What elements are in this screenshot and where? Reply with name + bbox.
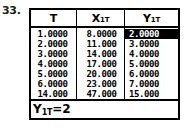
column-body-t: 1.0000 2.0000 3.0000 4.0000 5.0000 6.000… <box>31 28 76 99</box>
column-header-x1t-sub2: T <box>105 15 110 26</box>
table-cell[interactable]: 2.0000 <box>31 39 76 49</box>
table-cell[interactable]: 17.000 <box>77 59 124 69</box>
header-divider <box>31 26 178 28</box>
calculator-screen: T X1T Y1T 1.0000 2.0000 3.0000 4.0000 <box>29 8 180 120</box>
table-cell[interactable]: 47.000 <box>77 89 124 99</box>
table-cell[interactable]: 23.000 <box>77 79 124 89</box>
column-header-y1t-sub2: T <box>156 15 161 26</box>
calculator-table-figure: 33. T X1T Y1T 1.0000 <box>0 0 186 132</box>
status-entry-line[interactable]: Y1T=2 <box>31 99 178 118</box>
column-header-x1t-base: X <box>92 13 100 24</box>
table-cell[interactable]: 5.0000 <box>125 59 178 69</box>
table-cell[interactable]: 5.0000 <box>31 69 76 79</box>
table-cell[interactable]: 15.000 <box>125 89 178 99</box>
parametric-table[interactable]: T X1T Y1T 1.0000 2.0000 3.0000 4.0000 <box>31 10 178 99</box>
column-body-x1t: 8.0000 11.000 14.000 17.000 20.000 23.00… <box>77 28 124 99</box>
column-header-t[interactable]: T <box>31 10 76 26</box>
table-cell[interactable]: 4.0000 <box>31 59 76 69</box>
status-variable-sub2: T <box>47 108 52 117</box>
column-header-t-text: T <box>50 13 58 24</box>
column-body-y1t: 2.0000 3.0000 4.0000 5.0000 6.0000 7.000… <box>125 28 178 99</box>
table-cell[interactable]: 11.000 <box>77 39 124 49</box>
table-cell[interactable]: 14.000 <box>77 49 124 59</box>
problem-number-label: 33. <box>2 5 21 17</box>
table-cell[interactable]: 1.0000 <box>31 29 76 39</box>
table-cell[interactable]: 7.0000 <box>125 79 178 89</box>
table-cell-selected[interactable]: 2.0000 <box>125 29 178 39</box>
column-header-y1t[interactable]: Y1T <box>125 10 178 26</box>
column-header-y1t-base: Y <box>143 13 151 24</box>
status-value: 2 <box>62 102 70 116</box>
column-header-x1t[interactable]: X1T <box>77 10 124 26</box>
status-expression: Y1T=2 <box>33 103 71 117</box>
status-variable-base: Y <box>33 102 42 116</box>
table-cell[interactable]: 3.0000 <box>31 49 76 59</box>
table-cell[interactable]: 3.0000 <box>125 39 178 49</box>
table-cell[interactable]: 4.0000 <box>125 49 178 59</box>
table-cell[interactable]: 6.0000 <box>31 79 76 89</box>
table-cell[interactable]: 6.0000 <box>125 69 178 79</box>
table-cell[interactable]: 14.000 <box>31 89 76 99</box>
table-cell[interactable]: 8.0000 <box>77 29 124 39</box>
table-cell[interactable]: 20.000 <box>77 69 124 79</box>
status-equals-sign: = <box>52 102 62 116</box>
